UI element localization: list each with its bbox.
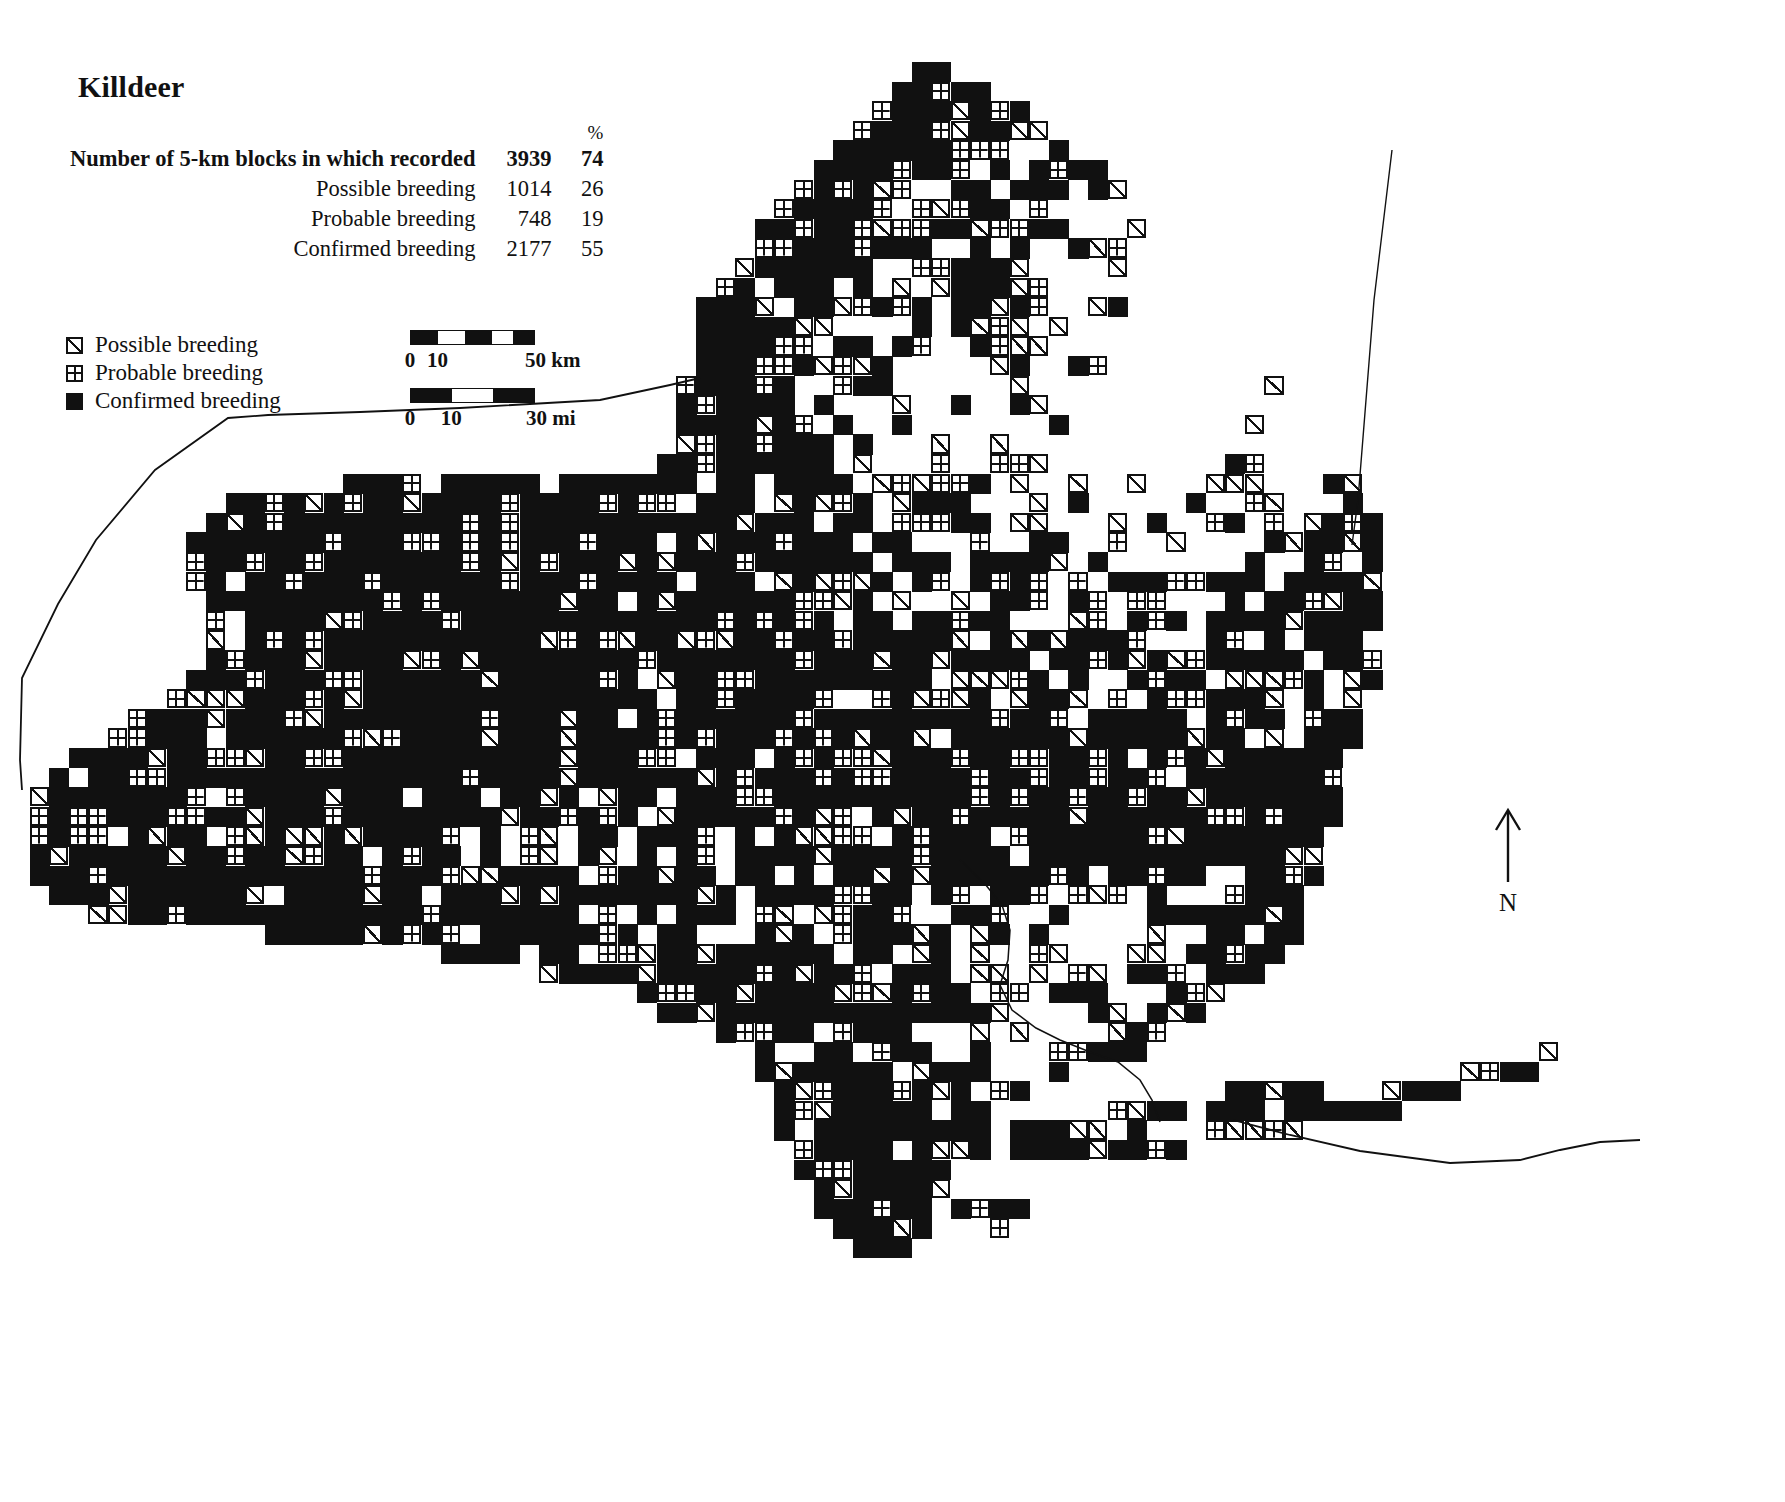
statistics-row: Confirmed breeding217755 (70, 235, 603, 265)
map-legend: Possible breedingProbable breedingConfir… (66, 332, 281, 416)
state-boundary-northwest (20, 378, 700, 790)
statistics-row: Probable breeding74819 (70, 205, 603, 235)
possible-block-icon (66, 337, 83, 354)
north-arrow-icon (1491, 800, 1525, 884)
statistics-row-percent: 19 (569, 205, 603, 235)
scale-bar-mi: 01030 mi (410, 388, 535, 432)
north-arrow: N (1478, 800, 1538, 916)
statistics-row-count: 748 (489, 205, 569, 235)
statistics-header-row: % (70, 122, 603, 145)
statistics-row-percent: 26 (569, 175, 603, 205)
scale-bar-segment (492, 331, 513, 344)
scale-bar-segment (513, 331, 534, 344)
legend-item-label: Possible breeding (95, 332, 258, 358)
scale-bar-segment (411, 331, 438, 344)
statistics-row: Number of 5-km blocks in which recorded3… (70, 145, 603, 175)
statistics-row-label: Probable breeding (70, 205, 489, 235)
statistics-row-count: 3939 (489, 145, 569, 175)
scale-bar-tick-label: 10 (427, 348, 448, 373)
state-boundary-southeast (960, 860, 1160, 1122)
percent-header: % (569, 122, 603, 145)
legend-item-possible: Possible breeding (66, 332, 281, 358)
legend-item-label: Confirmed breeding (95, 388, 281, 414)
scale-bar-segment (465, 331, 492, 344)
scale-bar-segment (438, 331, 465, 344)
scale-bar-ticks: 01030 mi (410, 406, 535, 432)
statistics-row: Possible breeding101426 (70, 175, 603, 205)
statistics-row-count: 2177 (489, 235, 569, 265)
statistics-row-percent: 74 (569, 145, 603, 175)
scale-bar-tick-label: 10 (441, 406, 462, 431)
legend-item-confirmed: Confirmed breeding (66, 388, 281, 414)
scale-bar-segment (411, 389, 452, 402)
statistics-row-label: Possible breeding (70, 175, 489, 205)
scale-bar-segment (452, 389, 494, 402)
scale-bars: 01050 km01030 mi (410, 330, 535, 446)
legend-item-label: Probable breeding (95, 360, 263, 386)
statistics-row-label: Confirmed breeding (70, 235, 489, 265)
probable-block-icon (66, 365, 83, 382)
statistics-table: % Number of 5-km blocks in which recorde… (70, 122, 603, 265)
state-boundary-long-island-sound (1233, 1120, 1640, 1163)
scale-bar-graphic (410, 388, 535, 403)
legend-item-probable: Probable breeding (66, 360, 281, 386)
statistics-table-body: % Number of 5-km blocks in which recorde… (70, 122, 603, 265)
statistics-row-label: Number of 5-km blocks in which recorded (70, 145, 489, 175)
scale-bar-tick-label: 30 mi (526, 406, 576, 431)
statistics-header-spacer (70, 122, 489, 145)
north-arrow-label: N (1478, 890, 1538, 916)
page-title: Killdeer (78, 70, 185, 104)
scale-bar-tick-label: 0 (405, 348, 416, 373)
confirmed-block-icon (66, 393, 83, 410)
statistics-row-count: 1014 (489, 175, 569, 205)
scale-bar-graphic (410, 330, 535, 345)
statistics-header-count (489, 122, 569, 145)
scale-bar-tick-label: 50 km (525, 348, 580, 373)
scale-bar-km: 01050 km (410, 330, 535, 374)
state-boundary-northeast (1352, 150, 1392, 545)
scale-bar-tick-label: 0 (405, 406, 416, 431)
scale-bar-segment (493, 389, 534, 402)
scale-bar-ticks: 01050 km (410, 348, 535, 374)
statistics-row-percent: 55 (569, 235, 603, 265)
